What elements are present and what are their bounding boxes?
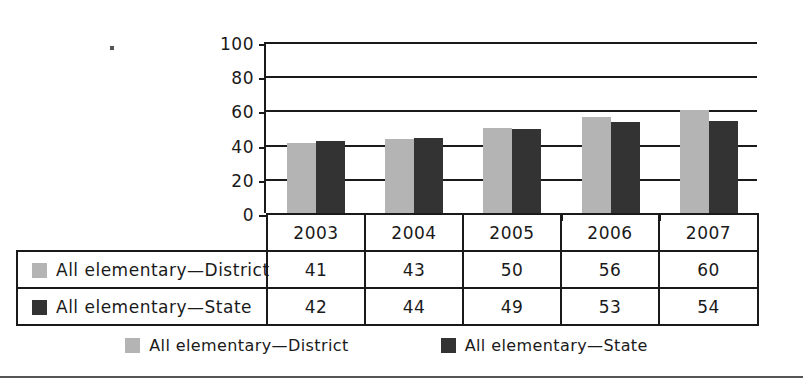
bar-group-2004: [364, 42, 462, 213]
table-column-header-2006: 2006: [561, 214, 659, 251]
y-tick-40: [259, 147, 266, 149]
bars-layer: [266, 42, 757, 213]
table-header-row: 20032004200520062007: [17, 214, 758, 251]
legend-item-state[interactable]: All elementary—State: [441, 336, 648, 355]
bar-district-2006: [582, 117, 611, 213]
y-tick-100: [259, 44, 266, 46]
legend-swatch-state-icon: [441, 338, 456, 353]
bar-state-2004: [414, 138, 443, 213]
table-row: All elementary—District4143505660: [17, 251, 758, 288]
bar-state-2007: [709, 121, 738, 213]
table-row: All elementary—State4244495354: [17, 288, 758, 325]
bar-district-2003: [287, 143, 316, 213]
bar-group-2007: [659, 42, 757, 213]
table-column-header-2005: 2005: [463, 214, 561, 251]
table-row-label-text: All elementary—District: [56, 260, 270, 280]
table-row-label-state: All elementary—State: [17, 288, 267, 325]
table-cell-state-2006: 53: [561, 288, 659, 325]
bar-group-2005: [462, 42, 560, 213]
y-tick-label-80: 80: [231, 68, 254, 88]
table-cell-state-2007: 54: [659, 288, 758, 325]
table-column-header-2007: 2007: [659, 214, 758, 251]
y-tick-label-100: 100: [220, 34, 254, 54]
legend-label: All elementary—District: [149, 336, 348, 355]
table-cell-district-2004: 43: [365, 251, 463, 288]
bar-district-2004: [385, 139, 414, 213]
y-tick-60: [259, 112, 266, 114]
y-tick-80: [259, 78, 266, 80]
bar-state-2006: [611, 122, 640, 213]
table-cell-district-2003: 41: [267, 251, 365, 288]
bar-state-2005: [512, 129, 541, 213]
bar-district-2005: [483, 128, 512, 214]
bar-state-2003: [316, 141, 345, 213]
y-tick-label-40: 40: [231, 136, 254, 156]
series-swatch-state-icon: [32, 300, 47, 315]
table-cell-district-2007: 60: [659, 251, 758, 288]
table-cell-state-2005: 49: [463, 288, 561, 325]
table-column-header-2003: 2003: [267, 214, 365, 251]
y-tick-label-60: 60: [231, 102, 254, 122]
chart-figure: 100806040200 20032004200520062007All ele…: [0, 0, 803, 387]
bar-group-2003: [266, 42, 364, 213]
bar-group-2006: [561, 42, 659, 213]
y-tick-20: [259, 181, 266, 183]
table-cell-state-2004: 44: [365, 288, 463, 325]
table-row-label-text: All elementary—State: [56, 297, 252, 317]
bar-district-2007: [680, 110, 709, 213]
legend-label: All elementary—State: [465, 336, 648, 355]
data-table: 20032004200520062007All elementary—Distr…: [16, 213, 759, 326]
table-cell-district-2005: 50: [463, 251, 561, 288]
plot-area: 100806040200: [266, 42, 757, 213]
image-artifact-speck: [110, 46, 114, 50]
table-cell-district-2006: 56: [561, 251, 659, 288]
table-corner-cell: [17, 214, 267, 251]
legend-swatch-district-icon: [125, 338, 140, 353]
table-row-label-district: All elementary—District: [17, 251, 267, 288]
chart-legend: All elementary—DistrictAll elementary—St…: [16, 336, 757, 355]
table-cell-state-2003: 42: [267, 288, 365, 325]
bottom-divider: [0, 376, 803, 378]
y-tick-label-20: 20: [231, 170, 254, 190]
table-column-header-2004: 2004: [365, 214, 463, 251]
legend-item-district[interactable]: All elementary—District: [125, 336, 348, 355]
series-swatch-district-icon: [32, 263, 47, 278]
